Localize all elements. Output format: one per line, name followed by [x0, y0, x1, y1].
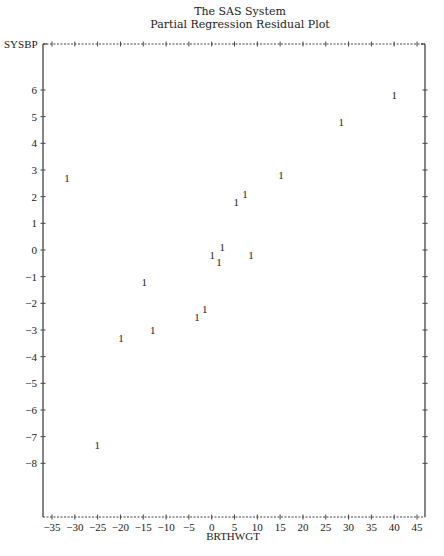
- y-tick-label: −8: [25, 457, 37, 469]
- data-point: 1: [339, 116, 345, 128]
- x-tick-label: 35: [366, 521, 378, 533]
- y-tick-label: 4: [32, 137, 38, 149]
- y-tick-label: −1: [25, 271, 37, 283]
- plot-frame: [43, 44, 425, 517]
- data-point: 1: [248, 249, 254, 261]
- y-tick-label: −7: [25, 431, 37, 443]
- x-tick-label: −5: [183, 521, 195, 533]
- x-tick-label: 30: [343, 521, 355, 533]
- y-tick-label: −5: [25, 377, 37, 389]
- data-point: 1: [278, 169, 284, 181]
- y-tick-label: 6: [32, 84, 38, 96]
- y-tick-label: 1: [32, 217, 38, 229]
- data-point: 1: [118, 332, 124, 344]
- x-tick-label: 20: [297, 521, 309, 533]
- x-tick-label: −15: [135, 521, 153, 533]
- x-tick-label: −35: [43, 521, 61, 533]
- data-point: 1: [141, 276, 147, 288]
- x-tick-label: −25: [89, 521, 107, 533]
- data-points: 1111111111111111: [64, 89, 397, 450]
- y-axis: 6543210−1−2−3−4−5−6−7−8: [25, 84, 427, 469]
- x-tick-label: 15: [275, 521, 287, 533]
- x-tick-label: 40: [389, 521, 401, 533]
- data-point: 1: [150, 324, 156, 336]
- data-point: 1: [194, 311, 200, 323]
- x-tick-label: −10: [157, 521, 175, 533]
- y-tick-label: −2: [25, 297, 37, 309]
- y-tick-label: 0: [32, 244, 38, 256]
- data-point: 1: [202, 303, 208, 315]
- data-point: 1: [391, 89, 397, 101]
- y-tick-label: −6: [25, 404, 37, 416]
- y-axis-label: SYSBP: [4, 38, 38, 50]
- y-tick-label: 5: [32, 111, 38, 123]
- y-tick-label: −4: [25, 351, 37, 363]
- x-tick-label: −20: [112, 521, 130, 533]
- data-point: 1: [209, 249, 215, 261]
- data-point: 1: [64, 172, 70, 184]
- data-point: 1: [216, 256, 222, 268]
- data-point: 1: [242, 188, 248, 200]
- data-point: 1: [234, 196, 240, 208]
- x-tick-label: −30: [66, 521, 84, 533]
- x-tick-label: 45: [412, 521, 424, 533]
- scatter-plot: 6543210−1−2−3−4−5−6−7−8 −35−30−25−20−15−…: [0, 0, 444, 556]
- y-tick-label: 2: [32, 191, 38, 203]
- data-point: 1: [219, 241, 225, 253]
- x-tick-label: 25: [320, 521, 332, 533]
- x-axis-label: BRTHWGT: [206, 530, 260, 542]
- data-point: 1: [94, 439, 100, 451]
- y-tick-label: −3: [25, 324, 37, 336]
- y-tick-label: 3: [32, 164, 38, 176]
- x-axis: −35−30−25−20−15−10−5051015202530354045: [43, 42, 423, 534]
